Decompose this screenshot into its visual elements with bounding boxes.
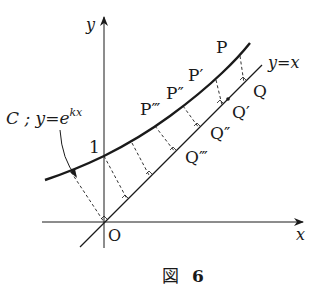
point-qtriple-label: Q‴ — [185, 147, 208, 167]
segment-y1-line — [132, 143, 150, 177]
segment-left — [71, 172, 104, 222]
origin-label: O — [108, 226, 121, 245]
segment-intercept — [104, 156, 127, 199]
figure-caption-kanji: 図 — [162, 266, 179, 286]
segment-pdouble-qdouble — [183, 106, 199, 128]
diagram-canvas: y x O 1 C ; y=ekx y=x P P′ P″ P‴ Q Q′ Q″… — [0, 0, 315, 297]
y-intercept-label: 1 — [89, 137, 100, 157]
y-axis-label: y — [85, 15, 96, 34]
point-q-label: Q — [253, 81, 267, 101]
x-axis-label: x — [296, 225, 305, 244]
figure-caption-number: 6 — [192, 266, 204, 286]
point-qdouble-label: Q″ — [210, 123, 230, 143]
line-label: y=x — [267, 53, 299, 72]
curve-label: C ; y=ekx — [6, 106, 83, 128]
curve-label-exponent: kx — [69, 106, 83, 119]
curve-label-prefix: C ; y=e — [6, 108, 69, 128]
point-qprime-label: Q′ — [232, 102, 250, 122]
point-pprime-label: P′ — [188, 65, 203, 85]
point-qprime-dot — [226, 97, 230, 101]
point-ptriple-label: P‴ — [140, 99, 160, 119]
point-p-label: P — [216, 37, 227, 57]
point-pdouble-label: P″ — [166, 83, 184, 103]
